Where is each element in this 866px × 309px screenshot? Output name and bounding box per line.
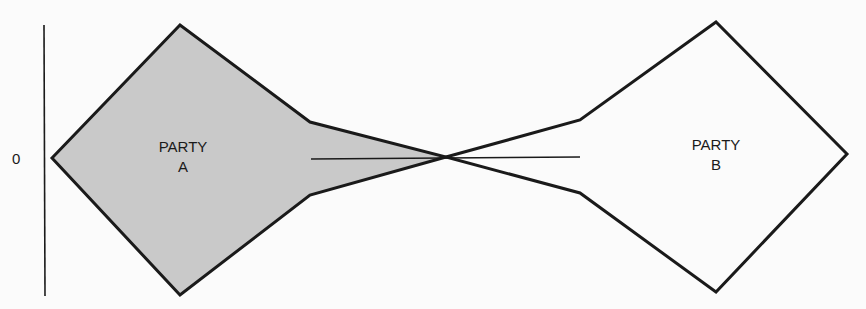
party-b-label-line2: B: [711, 156, 721, 173]
party-a-label-line2: A: [178, 158, 188, 175]
axis-zero-label: 0: [12, 150, 20, 167]
vertical-axis: [44, 25, 45, 296]
party-diagram: 0 PARTY A PARTY B: [0, 0, 866, 309]
party-b-label-line1: PARTY: [692, 136, 741, 153]
party-a-label-line1: PARTY: [159, 138, 208, 155]
party-a-shape: [52, 25, 446, 295]
